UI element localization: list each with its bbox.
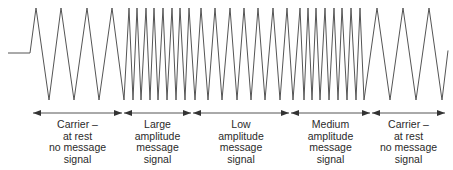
label-line: message [290,142,371,154]
carrier-waveform [30,8,448,100]
label-line: signal [290,154,371,166]
label-line: Large [123,119,192,131]
label-line: no message [32,142,123,154]
label-line: no message [371,142,446,154]
label-line: Low [192,119,290,131]
label-line: Carrier – [32,119,123,131]
segment-label-low-amplitude: Low amplitude message signal [192,119,290,165]
label-line: Medium [290,119,371,131]
segment-label-medium-amplitude: Medium amplitude message signal [290,119,371,165]
label-line: signal [192,154,290,166]
label-line: signal [32,154,123,166]
label-line: Carrier – [371,119,446,131]
label-line: message [192,142,290,154]
segment-label-carrier-start: Carrier – at rest no message signal [32,119,123,165]
label-line: signal [371,154,446,166]
label-line: signal [123,154,192,166]
segment-label-carrier-end: Carrier – at rest no message signal [371,119,446,165]
label-line: message [123,142,192,154]
segment-label-large-amplitude: Large amplitude message signal [123,119,192,165]
